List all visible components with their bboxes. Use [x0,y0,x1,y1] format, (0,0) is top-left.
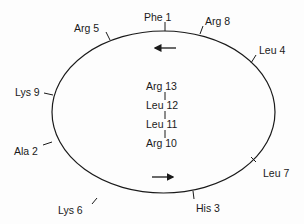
residue-tick [251,55,256,63]
ring-residue-arg-8: Arg 8 [205,15,230,27]
tail-residue-leu-11: Leu 11 [146,118,177,130]
ring-residue-lys-6: Lys 6 [58,204,83,216]
residue-ticks [43,22,256,204]
ring-residue-ala-2: Ala 2 [14,145,38,157]
residue-tick [193,191,194,199]
residue-tick [43,142,52,145]
ring-residue-his-3: His 3 [196,202,220,214]
ring-residue-arg-5: Arg 5 [74,22,99,34]
cyclic-peptide-diagram: Phe 1 Arg 8 Leu 4 Arg 5 Lys 9 Ala 2 Lys … [0,0,304,224]
tail-residue-leu-12: Leu 12 [146,99,178,111]
ring-residue-leu-4: Leu 4 [259,44,285,56]
residue-tick [92,198,97,204]
tail-residue-arg-10: Arg 10 [146,137,177,149]
diagram-canvas [0,0,304,224]
ring-residue-phe-1: Phe 1 [144,11,171,23]
ring-residue-lys-9: Lys 9 [15,86,40,98]
ring-residue-leu-7: Leu 7 [263,167,289,179]
residue-tick [200,26,203,34]
residue-tick [44,93,53,95]
peptide-ring [52,31,275,193]
tail-residue-arg-13: Arg 13 [146,80,177,92]
residue-tick [106,32,110,40]
direction-arrows [152,48,176,177]
